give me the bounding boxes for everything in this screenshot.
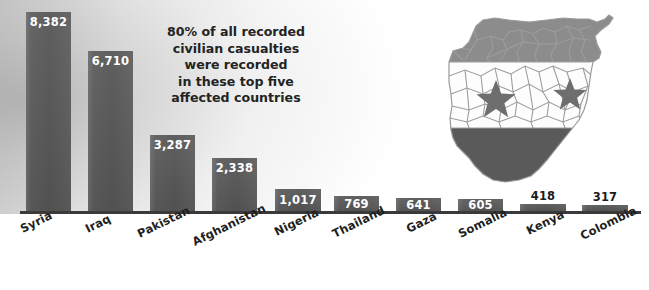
bar-value-somalia: 605	[458, 198, 503, 212]
syria-map-svg	[443, 6, 643, 186]
bar-value-kenya: 418	[520, 189, 566, 203]
syria-flag-map	[443, 6, 643, 186]
bar-syria	[26, 12, 71, 211]
bar-value-thailand: 769	[334, 197, 379, 211]
map-band-middle	[443, 62, 643, 128]
bar-value-afghanistan: 2,338	[212, 161, 257, 175]
annotation-line-5: affected countries	[148, 90, 324, 107]
annotation-line-3: were recorded	[148, 57, 324, 74]
category-axis-labels: Syria Iraq Pakistan Afghanistan Nigeria …	[0, 214, 649, 290]
axis-label-iraq: Iraq	[83, 211, 113, 235]
chart-container: 80% of all recorded civilian casualties …	[0, 0, 649, 290]
annotation-line-1: 80% of all recorded	[148, 24, 324, 41]
bar-value-pakistan: 3,287	[150, 138, 195, 152]
bar-iraq	[88, 51, 133, 211]
bar-value-gaza: 641	[396, 198, 441, 212]
bar-value-nigeria: 1,017	[275, 193, 321, 207]
annotation-line-4: in these top five	[148, 74, 324, 91]
annotation-callout: 80% of all recorded civilian casualties …	[148, 24, 324, 107]
bar-value-colombia: 317	[582, 190, 628, 204]
bar-value-syria: 8,382	[26, 15, 71, 29]
map-band-bottom	[443, 128, 643, 186]
bar-value-iraq: 6,710	[88, 54, 133, 68]
annotation-line-2: civilian casualties	[148, 41, 324, 58]
